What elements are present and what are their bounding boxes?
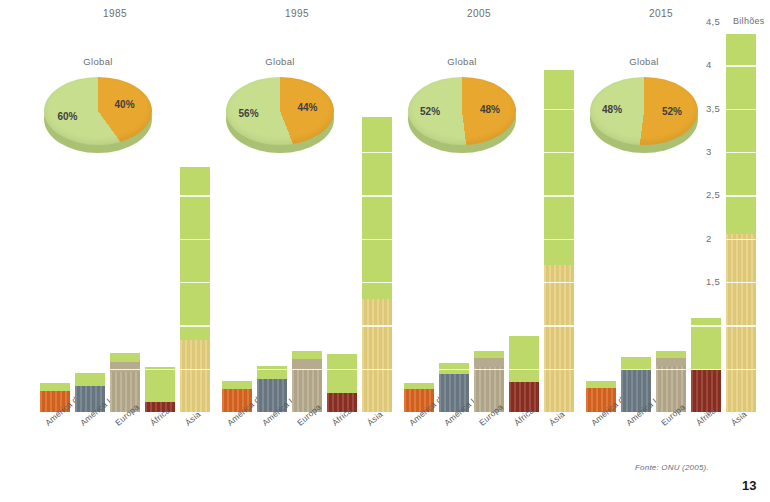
- bar-segment-urbana: [362, 299, 392, 412]
- bar-gridline: [691, 369, 721, 370]
- pie-chart-2005: Global48%52%: [392, 56, 532, 157]
- pie-title: Global: [392, 56, 532, 67]
- pie-title: Global: [28, 56, 168, 67]
- bar-segment-rural: [40, 383, 70, 391]
- bar-segment-rural: [544, 70, 574, 265]
- bar-gridline: [180, 239, 210, 240]
- y-axis-tick-label: 2: [706, 233, 712, 244]
- gridline: [30, 22, 690, 23]
- bar-gridline: [180, 282, 210, 283]
- bar-gridline: [110, 369, 140, 370]
- year-label-1995: 1995: [257, 8, 337, 19]
- pie-slice-label-rural: 52%: [420, 106, 440, 117]
- y-axis-tick-label: 2,5: [706, 189, 720, 200]
- bar-gridline: [362, 369, 392, 370]
- pie-chart-1985: Global40%60%: [28, 56, 168, 157]
- pie-slice-label-rural: 56%: [239, 108, 259, 119]
- bar-gridline: [362, 239, 392, 240]
- bar-gridline: [509, 369, 539, 370]
- bar-gridline: [362, 152, 392, 153]
- source-note: Fonte: ONU (2005).: [635, 463, 709, 472]
- pie-slice-label-urbana: 44%: [297, 102, 317, 113]
- pie-slice-label-urbana: 48%: [480, 104, 500, 115]
- pie-title: Global: [210, 56, 350, 67]
- bar-segment-rural: [586, 381, 616, 388]
- bar-segment-rural: [656, 351, 686, 366]
- bar-segment-rural: [404, 383, 434, 390]
- bar-gridline: [292, 369, 322, 370]
- bar-1985-ásia: [180, 167, 210, 412]
- bar-gridline: [544, 195, 574, 196]
- bar-gridline: [257, 369, 287, 370]
- pie-slice-label-rural: 60%: [57, 111, 77, 122]
- bar-gridline: [726, 239, 756, 240]
- bar-segment-rural: [75, 373, 105, 386]
- bar-gridline: [544, 369, 574, 370]
- bar-segment-urbana: [544, 265, 574, 412]
- bar-gridline: [544, 325, 574, 326]
- bar-gridline: [439, 369, 469, 370]
- bar-segment-rural: [509, 336, 539, 382]
- pie-graphic: 48%52%: [402, 71, 522, 157]
- year-label-1985: 1985: [75, 8, 155, 19]
- bar-2015-áfrica: [691, 318, 721, 412]
- y-axis-tick-label: 1,5: [706, 276, 720, 287]
- bar-gridline: [145, 369, 175, 370]
- bar-segment-rural: [474, 351, 504, 367]
- bar-gridline: [691, 325, 721, 326]
- pie-chart-1995: Global44%56%: [210, 56, 350, 157]
- bar-segment-rural: [327, 354, 357, 393]
- bar-gridline: [726, 109, 756, 110]
- bar-gridline: [726, 195, 756, 196]
- bar-gridline: [656, 369, 686, 370]
- bar-gridline: [362, 195, 392, 196]
- gridline: [30, 239, 690, 240]
- y-axis-tick-label: 4,5: [706, 16, 720, 27]
- bar-gridline: [180, 325, 210, 326]
- bar-segment-urbana: [691, 370, 721, 412]
- bar-gridline: [180, 369, 210, 370]
- year-label-2005: 2005: [439, 8, 519, 19]
- pie-title: Global: [574, 56, 714, 67]
- bar-1995-ásia: [362, 117, 392, 412]
- chart-canvas: 4,543,532,521,510,50BilhõesAmérica do No…: [0, 0, 770, 502]
- gridline: [30, 325, 690, 326]
- bar-gridline: [726, 152, 756, 153]
- bar-segment-urbana: [180, 340, 210, 412]
- pie-slice-label-urbana: 40%: [115, 99, 135, 110]
- pie-slice-label-rural: 48%: [602, 104, 622, 115]
- bar-gridline: [621, 369, 651, 370]
- bar-gridline: [726, 325, 756, 326]
- bar-gridline: [362, 325, 392, 326]
- bar-segment-rural: [621, 357, 651, 369]
- pie-graphic: 52%48%: [584, 71, 704, 157]
- pie-slice-label-urbana: 52%: [662, 106, 682, 117]
- pie-graphic: 44%56%: [220, 71, 340, 157]
- page-number: 13: [742, 478, 756, 493]
- bar-segment-rural: [726, 34, 756, 234]
- bar-gridline: [726, 65, 756, 66]
- bar-segment-rural: [292, 351, 322, 368]
- bar-1995-áfrica: [327, 354, 357, 412]
- bar-gridline: [544, 109, 574, 110]
- bar-gridline: [180, 195, 210, 196]
- bar-segment-rural: [180, 167, 210, 340]
- bar-gridline: [362, 282, 392, 283]
- gridline: [30, 195, 690, 196]
- bar-segment-rural: [145, 367, 175, 402]
- year-label-2015: 2015: [621, 8, 701, 19]
- bar-segment-urbana: [509, 382, 539, 412]
- bar-2015-ásia: [726, 34, 756, 412]
- gridline: [30, 282, 690, 283]
- bar-gridline: [544, 282, 574, 283]
- bar-segment-rural: [362, 117, 392, 299]
- bar-gridline: [327, 369, 357, 370]
- y-axis-unit-label: Bilhões: [733, 16, 765, 26]
- bar-segment-urbana: [726, 234, 756, 412]
- bar-segment-rural: [222, 381, 252, 389]
- bar-1985-áfrica: [145, 367, 175, 412]
- bar-gridline: [544, 239, 574, 240]
- bar-gridline: [544, 152, 574, 153]
- pie-graphic: 40%60%: [38, 71, 158, 157]
- bar-gridline: [726, 369, 756, 370]
